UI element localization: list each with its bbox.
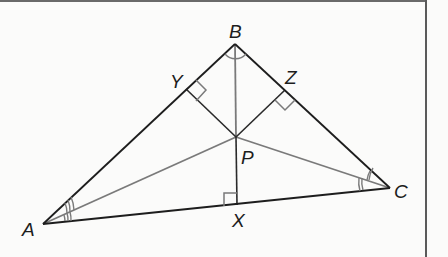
angle-arc-C-lower-1 [359, 178, 360, 191]
label-Y: Y [170, 71, 184, 92]
angle-arc-A-upper-3 [71, 197, 74, 210]
label-B: B [229, 21, 242, 42]
angle-bisectors [43, 44, 390, 224]
segment-PX [236, 137, 237, 205]
right-angle-marks [196, 80, 295, 206]
triangle-ABC [43, 44, 390, 224]
label-C: C [394, 181, 408, 202]
right-angle-mark-Z [275, 100, 295, 110]
label-X: X [231, 210, 246, 231]
angle-arc-A-upper-2 [68, 200, 70, 212]
segment-PY [186, 89, 236, 137]
segment-PZ [236, 90, 285, 137]
angle-arc-A-lower-2 [67, 213, 68, 221]
angle-marks [64, 54, 373, 221]
angle-arc-A-upper-1 [65, 203, 67, 213]
incenter-diagram: B A C P X Y Z [0, 0, 448, 257]
label-Z: Z [284, 67, 298, 88]
side-CA [43, 188, 390, 224]
side-AB [43, 44, 235, 224]
bisector-CP [236, 137, 390, 188]
label-P: P [241, 147, 254, 168]
angle-arc-A-lower-1 [64, 215, 65, 221]
angle-arc-A-lower-3 [70, 212, 71, 221]
label-A: A [21, 219, 35, 240]
right-angle-mark-Y [196, 80, 206, 101]
bisector-BP [235, 44, 236, 137]
bisector-AP [43, 137, 236, 224]
